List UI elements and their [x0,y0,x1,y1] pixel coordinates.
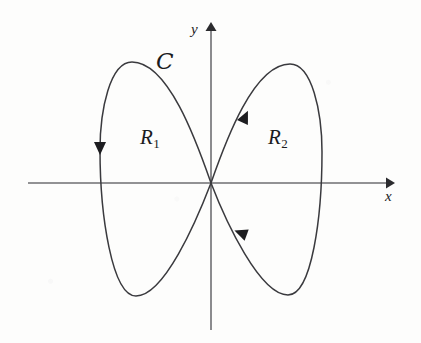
curve-left-lobe [100,62,211,296]
region-label-r2-subscript: 2 [281,136,288,151]
figure-canvas: C R1 R2 y x [0,0,421,343]
y-axis-label: y [191,22,198,37]
region-label-r1: R1 [140,127,160,150]
diagonal-up-right-arrow-icon [237,108,253,125]
curve-right-lobe [211,64,322,295]
left-lobe-down-arrow-icon [94,142,106,155]
region-label-r2: R2 [268,127,288,150]
y-axis-group [206,22,217,330]
x-axis-label: x [385,189,392,204]
region-label-r1-base: R [140,125,153,149]
direction-arrows-group [94,108,253,241]
diagonal-down-left-arrow-icon [232,225,248,241]
region-label-r1-subscript: 1 [153,136,160,151]
curve-label-C: C [156,50,174,73]
y-axis-arrowhead-icon [206,22,217,31]
x-axis-arrowhead-icon [386,178,395,189]
figure-graphic [0,0,421,343]
region-label-r2-base: R [268,125,281,149]
